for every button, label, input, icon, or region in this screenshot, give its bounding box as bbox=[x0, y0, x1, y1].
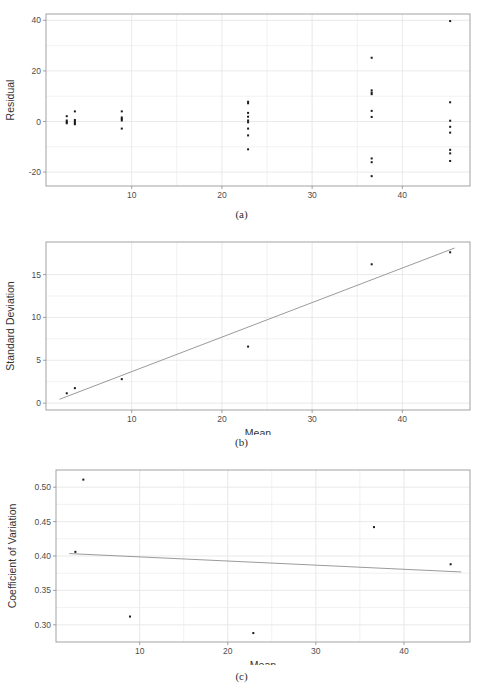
figure-panel-group: -200204010203040MeanResidual (a) 0510151… bbox=[0, 0, 483, 690]
x-tick-label: 20 bbox=[217, 190, 227, 200]
y-axis-title: Standard Deviation bbox=[4, 281, 16, 370]
x-tick-label: 10 bbox=[127, 190, 137, 200]
y-tick-label: 0 bbox=[36, 117, 41, 127]
data-point bbox=[247, 148, 249, 150]
data-point bbox=[129, 616, 131, 618]
data-point bbox=[371, 175, 373, 177]
data-point bbox=[371, 89, 373, 91]
x-axis-title: Mean bbox=[245, 203, 271, 205]
chart-panel-a: -200204010203040MeanResidual bbox=[0, 0, 483, 230]
data-point bbox=[74, 551, 76, 553]
data-point bbox=[247, 134, 249, 136]
data-point bbox=[449, 132, 451, 134]
y-axis-title: Residual bbox=[4, 80, 16, 121]
data-point bbox=[66, 122, 68, 124]
data-point bbox=[74, 123, 76, 125]
caption-a: (a) bbox=[0, 208, 483, 220]
chart-panel-c: 0.300.350.400.450.5010203040MeanCoeffici… bbox=[0, 458, 483, 690]
plot-frame bbox=[46, 242, 470, 410]
data-point bbox=[121, 378, 123, 380]
data-point bbox=[121, 110, 123, 112]
y-tick-label: 15 bbox=[32, 270, 42, 280]
scatter-plot-cv-vs-mean: 0.300.350.400.450.5010203040MeanCoeffici… bbox=[0, 458, 483, 665]
data-point bbox=[371, 116, 373, 118]
data-point bbox=[449, 149, 451, 151]
x-tick-label: 40 bbox=[399, 646, 409, 656]
x-tick-label: 30 bbox=[311, 646, 321, 656]
data-point bbox=[449, 152, 451, 154]
data-point bbox=[371, 57, 373, 59]
data-point bbox=[247, 102, 249, 104]
data-point bbox=[247, 346, 249, 348]
x-tick-label: 40 bbox=[398, 414, 408, 424]
regression-fit-line bbox=[60, 248, 455, 399]
data-point bbox=[121, 119, 123, 121]
y-tick-label: 0.35 bbox=[34, 585, 51, 595]
x-axis-title: Mean bbox=[245, 427, 271, 435]
data-point bbox=[449, 251, 451, 253]
y-tick-label: 0.40 bbox=[34, 551, 51, 561]
x-tick-label: 20 bbox=[223, 646, 233, 656]
data-point bbox=[247, 112, 249, 114]
plot-frame bbox=[46, 14, 470, 186]
scatter-plot-sd-vs-mean: 05101510203040MeanStandard Deviation bbox=[0, 230, 483, 435]
y-tick-label: 40 bbox=[32, 15, 42, 25]
x-tick-label: 10 bbox=[135, 646, 145, 656]
data-point bbox=[371, 93, 373, 95]
data-point bbox=[252, 632, 254, 634]
data-point bbox=[82, 479, 84, 481]
chart-panel-b: 05101510203040MeanStandard Deviation bbox=[0, 230, 483, 458]
x-tick-label: 30 bbox=[307, 414, 317, 424]
data-point bbox=[247, 121, 249, 123]
x-tick-label: 10 bbox=[127, 414, 137, 424]
y-tick-label: 0.30 bbox=[34, 620, 51, 630]
y-tick-label: 0 bbox=[36, 398, 41, 408]
data-point bbox=[449, 120, 451, 122]
data-point bbox=[373, 526, 375, 528]
x-axis-title: Mean bbox=[250, 659, 276, 665]
caption-c: (c) bbox=[0, 670, 483, 682]
data-point bbox=[450, 563, 452, 565]
y-tick-label: 0.50 bbox=[34, 482, 51, 492]
y-tick-label: 0.45 bbox=[34, 517, 51, 527]
y-axis-title: Coefficient of Variation bbox=[6, 504, 18, 609]
data-point bbox=[371, 157, 373, 159]
data-point bbox=[247, 128, 249, 130]
data-point bbox=[449, 20, 451, 22]
data-point bbox=[449, 160, 451, 162]
y-tick-label: 10 bbox=[32, 312, 42, 322]
data-point bbox=[449, 101, 451, 103]
y-tick-label: -20 bbox=[29, 167, 42, 177]
data-point bbox=[247, 119, 249, 121]
data-point bbox=[74, 387, 76, 389]
x-tick-label: 40 bbox=[398, 190, 408, 200]
data-point bbox=[247, 116, 249, 118]
caption-b: (b) bbox=[0, 436, 483, 448]
data-point bbox=[74, 110, 76, 112]
y-tick-label: 20 bbox=[32, 66, 42, 76]
data-point bbox=[66, 115, 68, 117]
scatter-plot-residual-vs-mean: -200204010203040MeanResidual bbox=[0, 0, 483, 205]
data-point bbox=[121, 128, 123, 130]
data-point bbox=[66, 392, 68, 394]
data-point bbox=[449, 126, 451, 128]
x-tick-label: 30 bbox=[307, 190, 317, 200]
y-tick-label: 5 bbox=[36, 355, 41, 365]
data-point bbox=[371, 110, 373, 112]
data-point bbox=[371, 161, 373, 163]
data-point bbox=[371, 263, 373, 265]
x-tick-label: 20 bbox=[217, 414, 227, 424]
